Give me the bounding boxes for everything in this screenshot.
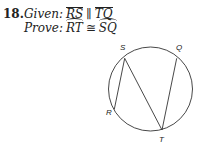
point-label-q: Q (176, 43, 182, 52)
chord-tq (162, 58, 177, 130)
chord-st (125, 58, 162, 130)
circle (109, 47, 193, 131)
point-label-s: S (120, 43, 126, 52)
point-label-t: T (159, 135, 165, 144)
point-label-r: R (106, 108, 112, 117)
circle-figure: S Q R T (0, 0, 204, 148)
